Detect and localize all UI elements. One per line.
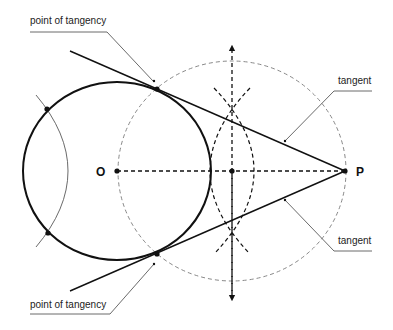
point-p [342, 168, 347, 173]
label-p: P [356, 165, 364, 179]
leader-dot-bottom [153, 263, 155, 265]
leader-dot-top [153, 80, 155, 82]
intersection-arc-bottom [45, 230, 50, 235]
tangent-construction-diagram: O P point of tangency point of tangency … [0, 0, 393, 330]
point-tangency-top [154, 86, 159, 91]
leader-dot-tangent-bottom [284, 199, 286, 201]
label-tangent-top: tangent [338, 75, 372, 86]
tangent-line-bottom [70, 171, 345, 291]
label-point-of-tangency-bottom: point of tangency [30, 299, 106, 310]
leader-point-of-tangency-top [30, 32, 153, 81]
point-tangency-bottom [154, 251, 159, 256]
label-tangent-bottom: tangent [338, 235, 372, 246]
leader-tangent-top [285, 91, 372, 141]
point-o [114, 168, 119, 173]
tangent-line-top [70, 51, 345, 171]
point-midpoint [229, 168, 234, 173]
label-point-of-tangency-top: point of tangency [30, 15, 106, 26]
leader-dot-tangent-top [284, 140, 286, 142]
intersection-arc-top [44, 106, 49, 111]
label-o: O [96, 165, 105, 179]
